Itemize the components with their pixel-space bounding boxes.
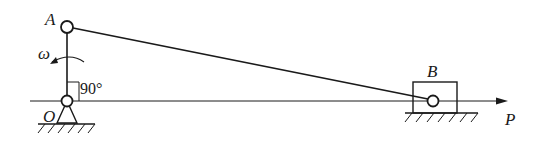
axis-arrowhead (496, 98, 508, 105)
omega-arrowhead (50, 57, 58, 64)
label-B: B (427, 62, 438, 81)
ground-hatch-B (405, 113, 478, 122)
joint-A (61, 21, 73, 33)
connecting-rod-AB (73, 28, 428, 99)
joint-B (428, 96, 439, 107)
joint-O (62, 96, 73, 107)
label-angle: 90° (80, 80, 102, 97)
label-omega: ω (38, 44, 50, 63)
label-O: O (43, 107, 55, 126)
label-A: A (44, 10, 56, 29)
label-P: P (504, 110, 515, 129)
slider-crank-diagram: A ω 90° O B P (0, 0, 545, 145)
